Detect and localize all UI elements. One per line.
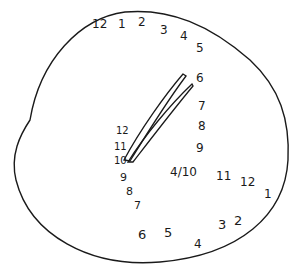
clock-number: 1 xyxy=(118,18,126,30)
clock-number: 8 xyxy=(198,120,206,132)
clock-hands xyxy=(124,74,193,162)
minute-hand-icon xyxy=(128,84,193,162)
clock-number: 4 xyxy=(194,238,202,250)
clock-number: 2 xyxy=(138,16,146,28)
clock-number: 6 xyxy=(138,228,146,241)
clock-number: 8 xyxy=(126,186,133,197)
clock-outline-and-hands xyxy=(0,0,297,275)
clock-drawing: 12 1 2 3 4 5 6 7 8 9 4/10 11 12 1 12 11 … xyxy=(0,0,297,275)
clock-number: 9 xyxy=(196,142,204,154)
clock-number: 7 xyxy=(198,100,206,112)
clock-number: 5 xyxy=(196,42,204,54)
clock-number: 12 xyxy=(116,126,129,136)
clock-face-outline xyxy=(14,11,288,262)
clock-number: 5 xyxy=(164,226,172,239)
clock-number: 2 xyxy=(234,214,242,227)
clock-number: 12 xyxy=(240,176,255,188)
hour-hand-icon xyxy=(124,74,186,161)
clock-number: 11 xyxy=(216,170,231,182)
clock-number: 12 xyxy=(92,18,107,30)
clock-number: 4 xyxy=(180,30,188,42)
clock-number: 1 xyxy=(264,188,272,200)
clock-number: 6 xyxy=(196,72,204,84)
clock-number: 3 xyxy=(160,24,168,36)
clock-number: 9 xyxy=(120,172,127,183)
clock-number: 3 xyxy=(218,218,226,231)
clock-number: 10 xyxy=(114,156,127,166)
clock-number: 11 xyxy=(114,142,127,152)
clock-number: 7 xyxy=(134,200,141,211)
clock-number: 4/10 xyxy=(170,166,197,178)
